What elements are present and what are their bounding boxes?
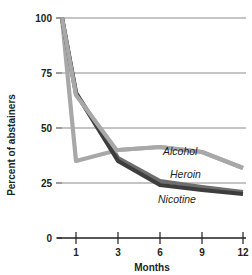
series-label-heroin: Heroin [170,168,201,180]
series-line-nicotine [62,18,243,194]
chart-container: Percent of abstainers 100 75 50 25 0 Alc… [0,0,252,275]
y-axis-title: Percent of abstainers [6,94,17,196]
series-line-heroin [62,18,243,192]
y-tick-label-50: 50 [41,123,53,134]
series-label-alcohol: Alcohol [162,145,198,157]
x-tick-label-3: 3 [115,247,121,258]
line-chart: Percent of abstainers 100 75 50 25 0 Alc… [0,0,252,275]
series-label-nicotine: Nicotine [158,193,196,205]
y-tick-label-75: 75 [41,68,53,79]
x-tick-label-1: 1 [73,247,79,258]
y-tick-label-0: 0 [46,233,52,244]
y-tick-label-100: 100 [35,13,52,24]
x-tick-label-6: 6 [157,247,163,258]
y-tick-label-25: 25 [41,178,53,189]
x-axis-title: Months [134,262,170,273]
x-tick-label-12: 12 [237,247,249,258]
x-tick-label-9: 9 [199,247,205,258]
